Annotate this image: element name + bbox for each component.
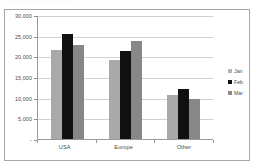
x-axis-tickmark: [37, 140, 38, 143]
chart-legend: JanFebMar: [228, 68, 243, 96]
chart-container: -5,00010,00015,00020,00025,00030,000 USA…: [4, 9, 250, 161]
x-axis-tick-label: Europe: [114, 144, 133, 150]
bar: [51, 50, 62, 139]
x-axis-tick-label: USA: [59, 144, 71, 150]
y-axis-labels: -5,00010,00015,00020,00025,00030,000: [5, 16, 35, 140]
y-axis-tick-label: -: [30, 137, 32, 143]
legend-item[interactable]: Mar: [228, 90, 243, 96]
bar: [62, 34, 73, 139]
legend-item-label: Feb: [234, 79, 243, 85]
bar: [120, 51, 131, 139]
x-axis-tick-label: Other: [177, 144, 192, 150]
bar: [189, 99, 200, 139]
bar: [109, 60, 120, 139]
x-axis-tickmark: [96, 140, 97, 143]
legend-swatch-icon: [228, 91, 232, 95]
y-axis-tick-label: 15,000: [15, 75, 32, 81]
bar: [167, 95, 178, 139]
x-axis-tickmarks: [37, 140, 213, 143]
bar: [178, 89, 189, 139]
bar: [73, 45, 84, 139]
plot-area: [37, 16, 213, 140]
legend-swatch-icon: [228, 80, 232, 84]
y-axis-tick-label: 25,000: [15, 34, 32, 40]
legend-item-label: Jan: [234, 68, 242, 74]
y-axis-tick-label: 20,000: [15, 54, 32, 60]
bar-group: [109, 16, 142, 139]
bar-group: [167, 16, 200, 139]
y-axis-tick-label: 5,000: [18, 116, 32, 122]
bar: [131, 41, 142, 139]
figure-caption: ................ ............ ..........…: [3, 0, 121, 5]
legend-item[interactable]: Feb: [228, 79, 243, 85]
x-axis-tickmark: [154, 140, 155, 143]
y-axis-tick-label: 30,000: [15, 13, 32, 19]
x-axis-tickmark: [213, 140, 214, 143]
legend-item-label: Mar: [234, 90, 243, 96]
x-axis-labels: USAEuropeOther: [37, 144, 213, 150]
chart-figure: ................ ............ ..........…: [0, 0, 255, 164]
y-axis-tick-label: 10,000: [15, 96, 32, 102]
bar-group: [51, 16, 84, 139]
legend-item[interactable]: Jan: [228, 68, 243, 74]
legend-swatch-icon: [228, 69, 232, 73]
bar-groups: [38, 16, 213, 139]
